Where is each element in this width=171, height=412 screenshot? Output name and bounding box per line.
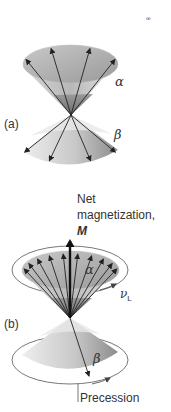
net-magnetization-line2: magnetization,	[77, 208, 155, 222]
alpha-label-b: α	[85, 262, 94, 277]
panel-b: Net magnetization, M α νL (b) β	[4, 192, 155, 405]
net-magnetization-line1: Net	[77, 192, 96, 206]
nmr-spin-diagram: ꟹ (a) α β Net magnetization, M	[0, 0, 171, 412]
panel-a-beta-cone	[23, 115, 118, 165]
larmor-frequency-label: νL	[120, 287, 132, 303]
panel-a-label: (a)	[4, 117, 19, 131]
panel-b-label: (b)	[4, 317, 19, 331]
net-magnetization-symbol: M	[77, 224, 88, 238]
beta-label-a: β	[113, 127, 122, 142]
beta-label-b: β	[92, 351, 101, 366]
alpha-label-a: α	[115, 74, 124, 89]
panel-a-alpha-cone	[23, 45, 118, 115]
precession-label: Precession	[80, 391, 139, 405]
corner-mark: ꟹ	[146, 16, 151, 23]
panel-a: (a) α β	[4, 45, 124, 165]
panel-b-beta-cone	[22, 318, 118, 369]
precession-direction-arrow	[92, 378, 110, 384]
